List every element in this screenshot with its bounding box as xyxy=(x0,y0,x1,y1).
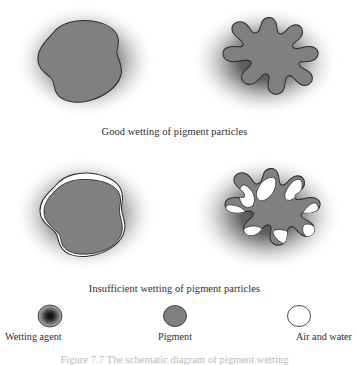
legend-label-wetting-agent: Wetting agent xyxy=(0,331,109,342)
air-and-water-icon xyxy=(240,303,357,329)
panel-good-wetting-round-particle xyxy=(6,2,164,122)
panel-good-wetting-star-particle xyxy=(183,2,347,122)
figure-caption: Figure 7.7 The schematic diagram of pigm… xyxy=(0,356,349,365)
legend-label-pigment: Pigment xyxy=(116,331,234,342)
caption-good-wetting: Good wetting of pigment particles xyxy=(0,126,349,137)
wetting-agent-icon xyxy=(0,303,109,329)
figure-caption-clip: Figure 7.7 The schematic diagram of pigm… xyxy=(0,356,349,365)
good-star-particle-graphic xyxy=(183,2,347,122)
good-round-particle-graphic xyxy=(6,2,164,122)
panel-insufficient-wetting-star-particle xyxy=(183,152,347,278)
poor-star-particle-graphic xyxy=(183,152,347,278)
legend-item-air-and-water: Air and water xyxy=(240,303,357,342)
legend-label-air-and-water: Air and water xyxy=(240,331,357,342)
legend: Wetting agent Pigment Air and water xyxy=(0,303,349,351)
caption-insufficient-wetting: Insufficient wetting of pigment particle… xyxy=(0,283,349,294)
pigment-icon xyxy=(116,303,234,329)
legend-item-pigment: Pigment xyxy=(116,303,234,342)
legend-item-wetting-agent: Wetting agent xyxy=(0,303,109,342)
poor-round-particle-graphic xyxy=(6,152,164,278)
panel-insufficient-wetting-round-particle xyxy=(6,152,164,278)
